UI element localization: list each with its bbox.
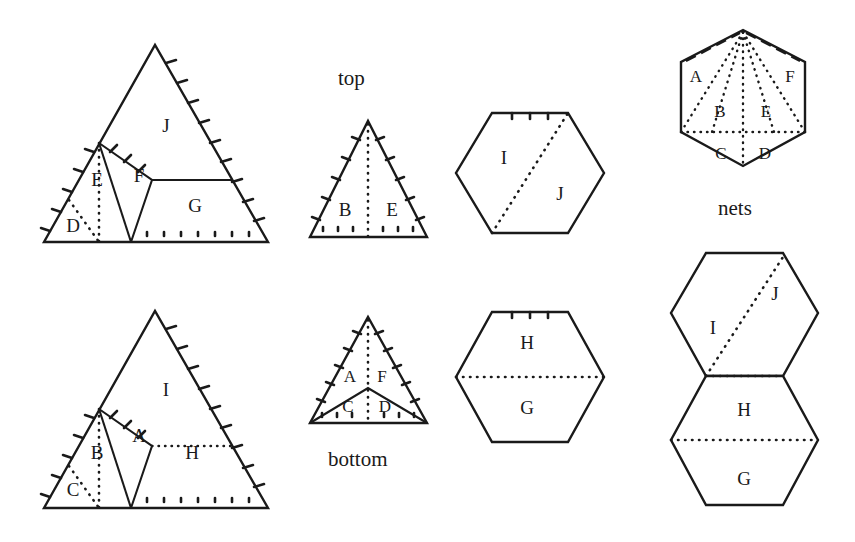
cell-label: D bbox=[66, 215, 80, 236]
cell-label: H bbox=[737, 399, 751, 420]
cell-label: B bbox=[91, 442, 104, 463]
geometry-figure: D E F G J bbox=[0, 0, 855, 542]
top-face-triangle: D E F G J bbox=[41, 45, 268, 242]
bottom-face-triangle: C B A H I bbox=[41, 311, 268, 508]
cell-label: I bbox=[710, 317, 716, 338]
cell-label: A bbox=[344, 367, 357, 386]
top-small-triangle: B E bbox=[310, 121, 427, 237]
cell-label: A bbox=[132, 425, 146, 446]
bottom-small-triangle: A F C D bbox=[310, 317, 427, 423]
cell-label: C bbox=[67, 479, 80, 500]
cell-label: F bbox=[377, 367, 386, 386]
bottom-hexagon: H G bbox=[456, 312, 604, 442]
cell-label: F bbox=[134, 165, 145, 186]
cell-label: E bbox=[91, 169, 103, 190]
cell-label: I bbox=[501, 147, 507, 168]
cell-label: F bbox=[785, 67, 794, 86]
cell-label: C bbox=[715, 144, 726, 163]
cell-label: G bbox=[737, 468, 751, 489]
cell-label: I bbox=[163, 379, 169, 400]
cell-label: J bbox=[771, 283, 778, 304]
bottom-label: bottom bbox=[328, 447, 388, 472]
cell-label: E bbox=[386, 199, 398, 220]
cell-label: J bbox=[556, 183, 563, 204]
cell-label: E bbox=[761, 102, 771, 121]
net-hexagon-pair: J I H G bbox=[671, 253, 818, 505]
top-hexagon: I J bbox=[456, 113, 604, 233]
cell-label: J bbox=[162, 115, 169, 136]
top-label: top bbox=[338, 66, 365, 91]
cell-label: G bbox=[520, 397, 534, 418]
cell-label: H bbox=[185, 442, 199, 463]
net-hexagon-top: A F B E C D bbox=[681, 30, 805, 166]
cell-label: A bbox=[690, 67, 703, 86]
cell-label: B bbox=[714, 102, 725, 121]
figure-canvas: D E F G J bbox=[0, 0, 855, 542]
cell-label: G bbox=[188, 195, 202, 216]
cell-label: B bbox=[339, 199, 352, 220]
cell-label: D bbox=[759, 144, 771, 163]
cell-label: C bbox=[342, 397, 353, 416]
cell-label: D bbox=[379, 397, 391, 416]
hexagon-outline-upper bbox=[671, 253, 818, 376]
nets-label: nets bbox=[718, 196, 752, 221]
cell-label: H bbox=[520, 332, 534, 353]
